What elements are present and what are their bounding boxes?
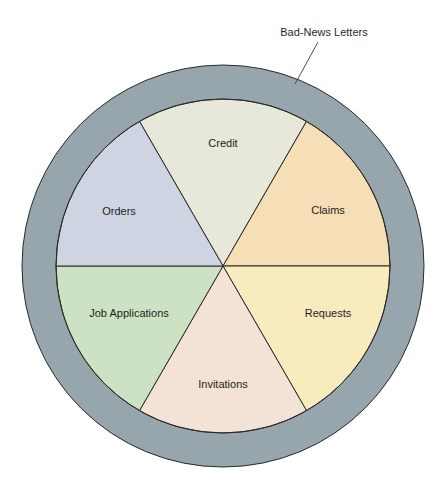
label-claims: Claims <box>311 204 345 216</box>
bad-news-letters-diagram: Credit Claims Requests Invitations Job A… <box>0 0 447 496</box>
label-invitations: Invitations <box>198 378 248 390</box>
label-credit: Credit <box>208 137 237 149</box>
callout-leader-line <box>295 42 318 84</box>
label-job-applications: Job Applications <box>89 307 169 319</box>
callout-label: Bad-News Letters <box>280 26 368 38</box>
label-orders: Orders <box>102 205 136 217</box>
label-requests: Requests <box>305 307 352 319</box>
